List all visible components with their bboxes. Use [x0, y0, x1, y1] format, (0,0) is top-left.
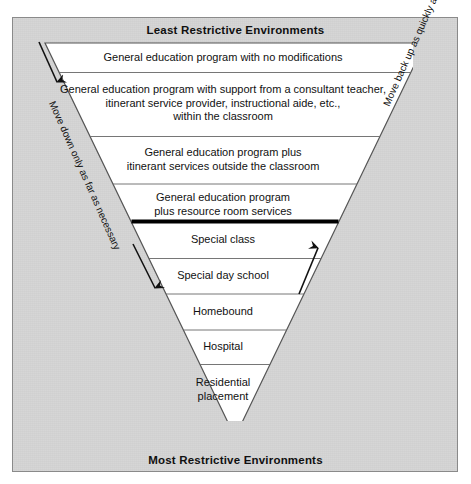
bottom-caption: Most Restrictive Environments — [0, 454, 471, 466]
inverted-triangle: General education program with no modifi… — [33, 26, 413, 421]
diagram-page: Least Restrictive Environments — [0, 0, 471, 484]
triangle-graphic — [33, 26, 413, 421]
